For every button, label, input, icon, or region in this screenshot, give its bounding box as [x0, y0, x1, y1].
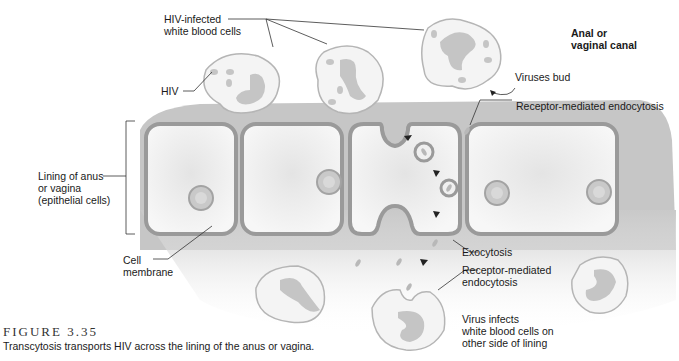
- figure-caption: Transcytosis transports HIV across the l…: [3, 340, 314, 352]
- label-exocytosis: Exocytosis: [462, 246, 512, 258]
- label-viruses-bud: Viruses bud: [515, 71, 570, 83]
- label-virus-infects: Virus infects white blood cells on other…: [462, 313, 554, 349]
- label-cell-membrane: Cell membrane: [123, 254, 173, 278]
- figure-title: FIGURE 3.35: [3, 324, 98, 340]
- epithelial-cell: [467, 124, 617, 234]
- label-rme-top: Receptor-mediated endocytosis: [516, 100, 664, 112]
- epithelial-cell: [146, 124, 236, 234]
- label-rme-bottom: Receptor-mediated endocytosis: [462, 264, 551, 288]
- label-canal: Anal or vaginal canal: [571, 27, 637, 51]
- label-hiv-infected-wbc: HIV-infected white blood cells: [164, 13, 241, 37]
- epithelial-cells: [146, 124, 617, 234]
- label-hiv: HIV: [161, 85, 179, 97]
- label-lining: Lining of anus or vagina (epithelial cel…: [38, 170, 110, 206]
